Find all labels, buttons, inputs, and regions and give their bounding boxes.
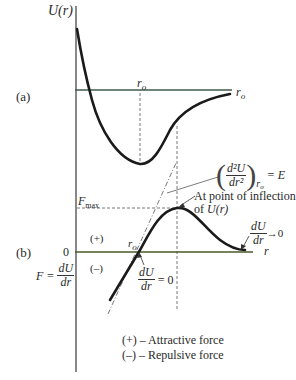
legend-repulsive: (–) – Repulsive force (122, 349, 224, 361)
force-curve (110, 208, 245, 300)
potential-energy-curve (77, 29, 230, 164)
du-dr-zero-label: dUdr = 0 (138, 266, 173, 293)
inflection-label: At point of inflection of U(r) (194, 190, 296, 216)
y-axis-label: U(r) (48, 4, 73, 18)
r-o-right-label: ro (236, 86, 245, 98)
f-max-label: Fmax (78, 195, 99, 207)
r-o-top-label: ro (137, 77, 146, 89)
panel-b-label: (b) (16, 246, 31, 259)
r-o-crossing-label: ro (128, 238, 137, 249)
force-definition: F = dUdr (36, 262, 74, 289)
legend-attractive: (+) – Attractive force (122, 334, 224, 346)
panel-a-label: (a) (16, 90, 30, 103)
second-derivative-label: (d²Udr²)ro = E (216, 160, 285, 190)
repulsive-region-label: (–) (90, 263, 103, 274)
attractive-region-label: (+) (90, 233, 104, 244)
zero-tick-label: 0 (63, 246, 69, 258)
du-dr-limit-label: dUdr→0 (250, 220, 283, 247)
